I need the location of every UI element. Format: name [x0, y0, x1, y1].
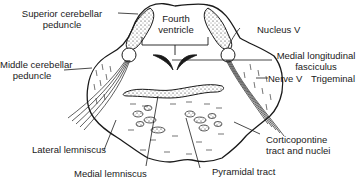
label-middle-cerebellar-peduncle: Middle cerebellar peduncle: [0, 59, 64, 81]
nerve-v-fibers-left: [68, 60, 130, 130]
label-nucleus-v: Nucleus V: [257, 24, 300, 35]
medial-lemniscus-band: [123, 85, 223, 98]
label-superior-cerebellar-peduncle: Superior cerebellar peduncle: [8, 8, 116, 30]
label-line: tract and nuclei: [266, 145, 330, 156]
label-fourth-ventricle: Fourth ventricle: [150, 13, 202, 35]
basilar-pons-fibers: [128, 102, 224, 154]
label-line: Superior cerebellar: [8, 8, 116, 19]
label-lateral-lemniscus: Lateral lemniscus: [32, 144, 106, 155]
label-line: peduncle: [8, 19, 116, 30]
label-pyramidal-tract: Pyramidal tract: [212, 166, 275, 177]
nucleus-v-left: [122, 48, 136, 62]
label-line: Medial longitudinal: [272, 50, 358, 61]
label-corticopontine-tract: Corticopontine tract and nuclei: [266, 134, 330, 156]
label-trigeminal: Trigeminal: [311, 73, 355, 84]
label-medial-lemniscus: Medial lemniscus: [74, 168, 147, 179]
medial-longitudinal-fasciculus: [153, 55, 197, 70]
label-line: Fourth: [150, 13, 202, 24]
label-nerve-v: Nerve V: [268, 73, 302, 84]
label-medial-longitudinal-fasciculus: Medial longitudinal fasciculus: [272, 50, 358, 72]
pontine-nuclei-clusters: [133, 106, 222, 134]
label-line: peduncle: [0, 70, 64, 81]
label-line: Middle cerebellar: [0, 59, 64, 70]
label-line: Corticopontine: [266, 134, 330, 145]
fourth-ventricle-bracket: [142, 37, 208, 55]
label-line: fasciculus: [272, 61, 358, 72]
label-line: ventricle: [150, 24, 202, 35]
